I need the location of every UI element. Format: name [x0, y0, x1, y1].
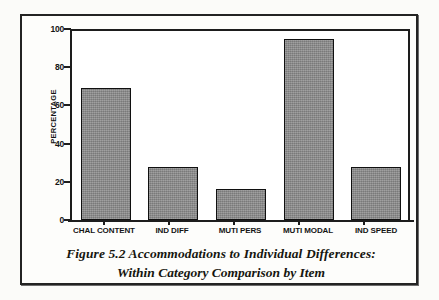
bar-slot-ind-speed	[344, 29, 408, 220]
x-tick-mark-3	[233, 220, 235, 225]
x-axis-labels: CHAL CONTENT IND DIFF MUTI PERS MUTI MOD…	[70, 226, 410, 242]
bar-slot-chal-content	[74, 29, 138, 220]
figure-caption: Figure 5.2 Accommodations to Individual …	[22, 244, 420, 282]
x-label-muti-pers: MUTI PERS	[208, 226, 273, 235]
x-label-muti-modal: MUTI MODAL	[276, 226, 341, 235]
y-tick-label-100: 100	[24, 24, 64, 34]
x-label-chal-content: CHAL CONTENT	[72, 226, 137, 235]
y-axis-title: PERCENTAGE	[49, 62, 58, 172]
y-tick-label-20: 20	[24, 177, 64, 187]
figure-page: PERCENTAGE 100 80 60 40 20 0	[0, 0, 439, 300]
chart-area: PERCENTAGE 100 80 60 40 20 0	[22, 16, 420, 229]
x-tick-mark-2	[168, 220, 170, 225]
figure-caption-line-1: Figure 5.2 Accommodations to Individual …	[22, 244, 420, 263]
figure-frame: PERCENTAGE 100 80 60 40 20 0	[20, 14, 418, 285]
bar-muti-pers[interactable]	[216, 189, 266, 220]
bar-series	[72, 29, 410, 220]
figure-caption-line-2: Within Category Comparison by Item	[22, 263, 420, 282]
x-tick-mark-4	[298, 220, 300, 225]
y-tick-label-0: 0	[24, 215, 64, 225]
bar-slot-ind-diff	[141, 29, 205, 220]
x-label-ind-diff: IND DIFF	[140, 226, 205, 235]
bar-chal-content[interactable]	[81, 88, 131, 220]
bar-ind-diff[interactable]	[148, 167, 198, 220]
bar-muti-modal[interactable]	[284, 39, 334, 220]
x-tick-mark-5	[363, 220, 365, 225]
bar-slot-muti-pers	[209, 29, 273, 220]
y-tick-label-80: 80	[24, 62, 64, 72]
bar-ind-speed[interactable]	[351, 167, 401, 220]
x-tick-mark-1	[103, 220, 105, 225]
y-tick-label-40: 40	[24, 139, 64, 149]
bar-slot-muti-modal	[276, 29, 340, 220]
y-tick-label-60: 60	[24, 100, 64, 110]
x-label-ind-speed: IND SPEED	[344, 226, 409, 235]
